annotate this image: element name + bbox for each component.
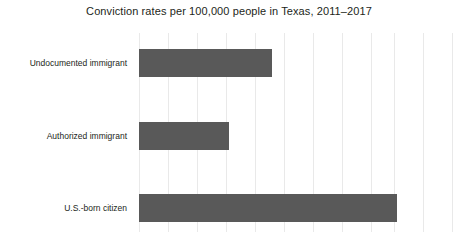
category-label-undocumented-immigrant: Undocumented immigrant [30, 49, 127, 77]
category-axis-labels: Undocumented immigrant Authorized immigr… [0, 33, 133, 232]
gridline [452, 33, 453, 232]
bar-series [139, 33, 452, 232]
category-label-authorized-immigrant: Authorized immigrant [47, 122, 127, 150]
category-label-us-born-citizen: U.S.-born citizen [64, 194, 127, 222]
bar-undocumented-immigrant [139, 49, 272, 77]
bar-chart: Conviction rates per 100,000 people in T… [0, 0, 458, 234]
chart-title: Conviction rates per 100,000 people in T… [0, 5, 458, 17]
plot-area [139, 33, 452, 232]
bar-us-born-citizen [139, 194, 397, 222]
bar-authorized-immigrant [139, 122, 229, 150]
